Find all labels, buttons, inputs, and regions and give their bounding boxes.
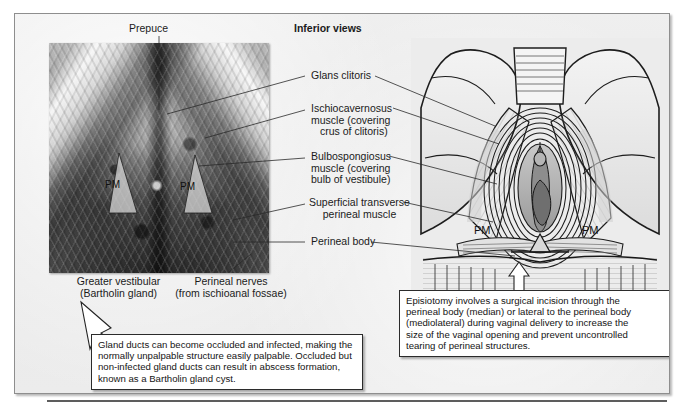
callout-line: known as a Bartholin gland cyst. (98, 373, 356, 384)
callout-line: Gland ducts can become occluded and infe… (98, 339, 356, 350)
figure-plate: PM PM Prepuce Inferior views (14, 13, 670, 394)
label-line: Glans clitoris (311, 70, 371, 82)
callout-episiotomy: Episiotomy involves a surgical incision … (399, 290, 670, 357)
label-line: (from ischioanal fossae) (133, 288, 329, 300)
illustration-svg: PM PM (411, 38, 669, 296)
callout-line: Episiotomy involves a surgical incision … (406, 295, 664, 306)
photo-pm-markers (49, 43, 269, 273)
photo-top-label-prepuce: Prepuce (129, 23, 168, 35)
label-line: perineal muscle (309, 209, 410, 221)
label-line: Bulbospongiosus (311, 151, 391, 163)
callout-line: non-infected gland ducts can result in a… (98, 361, 356, 372)
label-perineal-body: Perineal body (311, 236, 375, 248)
label-line: Perineal body (311, 236, 375, 248)
cadaver-photograph: PM PM (49, 43, 269, 273)
perineum-illustration: PM PM (411, 38, 669, 296)
label-line: crus of clitoris) (311, 126, 392, 138)
label-bulbospongiosus: Bulbospongiosus muscle (covering bulb of… (311, 151, 391, 186)
callout-line: size of the vaginal opening and prevent … (406, 329, 664, 340)
label-superficial-transverse-perineal-muscle: Superficial transverse perineal muscle (309, 197, 410, 220)
callout-bartholin-gland: Gland ducts can become occluded and infe… (91, 334, 363, 390)
footer-rule (47, 400, 667, 402)
label-line: Ischiocavernosus (311, 103, 392, 115)
callout-line: (mediolateral) during vaginal delivery t… (406, 317, 664, 328)
label-line: bulb of vestibule) (311, 174, 391, 186)
label-perineal-nerves: Perineal nerves (from ischioanal fossae) (133, 276, 329, 299)
label-line: Superficial transverse (309, 197, 410, 209)
photo-pm-label-right: PM (180, 181, 195, 192)
photo-pm-label-left: PM (105, 179, 120, 190)
page-root: PM PM Prepuce Inferior views (0, 0, 682, 415)
illustration-pm-label-right: PM (582, 224, 599, 236)
illustration-pm-label-left: PM (474, 224, 491, 236)
callout-line: perineal body (median) or lateral to the… (406, 306, 664, 317)
label-glans-clitoris: Glans clitoris (311, 70, 371, 82)
callout-line: normally unpalpable structure easily pal… (98, 350, 356, 361)
label-ischiocavernosus: Ischiocavernosus muscle (covering crus o… (311, 103, 392, 138)
callout-line: tearing of perineal structures. (406, 340, 664, 351)
label-line: Perineal nerves (133, 276, 329, 288)
page-heading: Inferior views (294, 23, 362, 35)
